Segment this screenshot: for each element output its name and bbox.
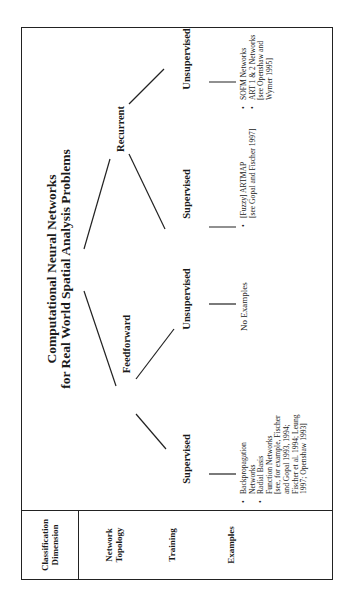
bullet-icon: • <box>240 224 249 227</box>
node-rec-unsupervised: Unsupervised <box>181 28 192 89</box>
edge-title-feedforward <box>84 291 116 386</box>
examples-rec-unsupervised: • SOFM Networks • ART 1 & 2 Networks [se… <box>240 24 274 109</box>
examples-ff-supervised: • Backpropagation Networks • Radial Basi… <box>240 373 309 503</box>
node-feedforward: Feedforward <box>121 315 132 373</box>
edge-recurrent-supervised <box>129 154 165 229</box>
examples-rec-supervised: • [Fuzzy] ARTMAP [see Gopal and Fischer … <box>240 97 257 227</box>
node-recurrent: Recurrent <box>115 106 126 152</box>
example-item: • [Fuzzy] ARTMAP [see Gopal and Fischer … <box>240 97 257 218</box>
example-item: • Radial Basis Function Networks [see, f… <box>257 373 309 494</box>
diagram-frame: Classification Dimension Network Topolog… <box>21 27 333 580</box>
example-item: • ART 1 & 2 Networks [see Openshaw and W… <box>249 24 275 100</box>
edge-recurrent-unsupervised <box>129 69 164 104</box>
edge-title-recurrent <box>84 159 110 249</box>
edge-feedforward-unsupervised <box>136 329 174 379</box>
edge-feedforward-supervised <box>136 414 166 449</box>
examples-ff-unsupervised: No Examples <box>240 241 249 331</box>
bullet-icon: • <box>257 500 266 503</box>
example-item: • Backpropagation Networks <box>240 373 257 494</box>
node-rec-supervised: Supervised <box>181 169 192 219</box>
example-citation: [see Gopal and Fischer 1997] <box>249 97 258 218</box>
bullet-icon: • <box>240 500 249 503</box>
example-citation: Wymer 1995] <box>266 24 275 100</box>
example-citation: 1997; Openshaw 1993] <box>300 373 309 494</box>
node-ff-unsupervised: Unsupervised <box>181 268 192 329</box>
node-ff-supervised: Supervised <box>181 434 192 484</box>
bullet-icon: • <box>249 106 258 109</box>
